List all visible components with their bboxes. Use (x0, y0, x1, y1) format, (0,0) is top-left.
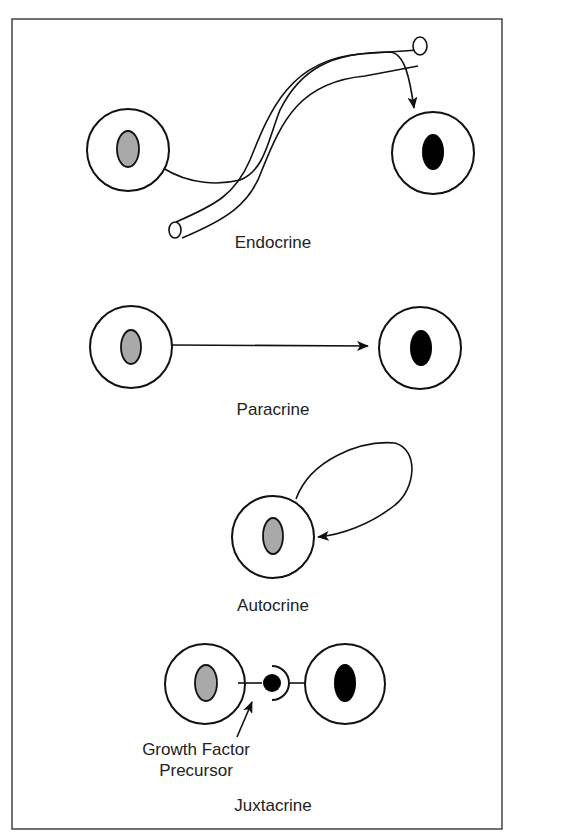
blood-vessel-icon (169, 37, 427, 238)
source-nucleus (263, 518, 283, 554)
precursor-label: Precursor (159, 761, 233, 781)
target-nucleus (410, 330, 432, 366)
growth-factor-label: Growth Factor (142, 740, 250, 760)
endocrine-panel (87, 37, 474, 238)
source-nucleus (117, 131, 139, 167)
autocrine-label: Autocrine (237, 596, 309, 616)
paracrine-label: Paracrine (237, 400, 310, 420)
precursor-pointer-arrow (237, 702, 252, 737)
target-nucleus (334, 664, 356, 702)
target-nucleus (422, 134, 444, 170)
source-nucleus (121, 330, 141, 364)
autocrine-panel (232, 443, 412, 578)
paracrine-panel (90, 306, 461, 389)
juxtacrine-panel (165, 644, 385, 737)
growth-factor-dot (263, 674, 281, 692)
target-cell (392, 112, 474, 194)
endocrine-label: Endocrine (235, 233, 312, 253)
source-cell (87, 109, 169, 191)
autocrine-loop-arrow (296, 443, 412, 537)
paracrine-arrow (172, 345, 368, 346)
source-nucleus (195, 665, 217, 701)
juxtacrine-label: Juxtacrine (234, 796, 311, 816)
